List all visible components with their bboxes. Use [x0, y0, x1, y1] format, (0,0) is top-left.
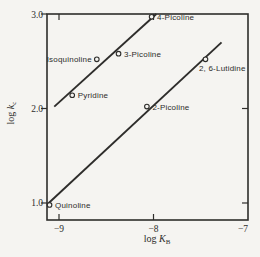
y-tick-label: 2.0 [31, 104, 43, 114]
lower-fit-line [48, 42, 222, 204]
data-point-3-picoline [116, 51, 121, 56]
data-point-quinoline [47, 203, 52, 208]
point-label: 2, 6-Lutidine [199, 64, 246, 73]
x-tick-label: −9 [54, 224, 64, 234]
y-tick-label: 3.0 [31, 10, 43, 20]
data-point-isoquinoline [95, 57, 100, 62]
point-label: Pyridine [78, 91, 109, 100]
y-tick-label: 1.0 [31, 198, 43, 208]
point-label: 3-Picoline [124, 50, 161, 59]
x-tick-label: −7 [238, 224, 248, 234]
x-tick-label: −8 [148, 224, 158, 234]
plot-area: QuinolinePyridineIsoquinoline3-Picoline4… [0, 0, 260, 257]
point-label: Isoquinoline [47, 55, 92, 64]
data-point-pyridine [70, 93, 75, 98]
y-axis-title: log kc [5, 102, 18, 125]
point-label: Quinoline [55, 201, 91, 210]
point-label: 2-Picoline [152, 103, 189, 112]
point-label: 4-Picoline [157, 13, 194, 22]
data-point-2-picoline [145, 104, 150, 109]
scatter-plot-figure: QuinolinePyridineIsoquinoline3-Picoline4… [0, 0, 260, 257]
data-point-2-6-lutidine [203, 57, 208, 62]
x-axis-title: log KB [144, 233, 171, 246]
data-point-4-picoline [149, 15, 154, 20]
